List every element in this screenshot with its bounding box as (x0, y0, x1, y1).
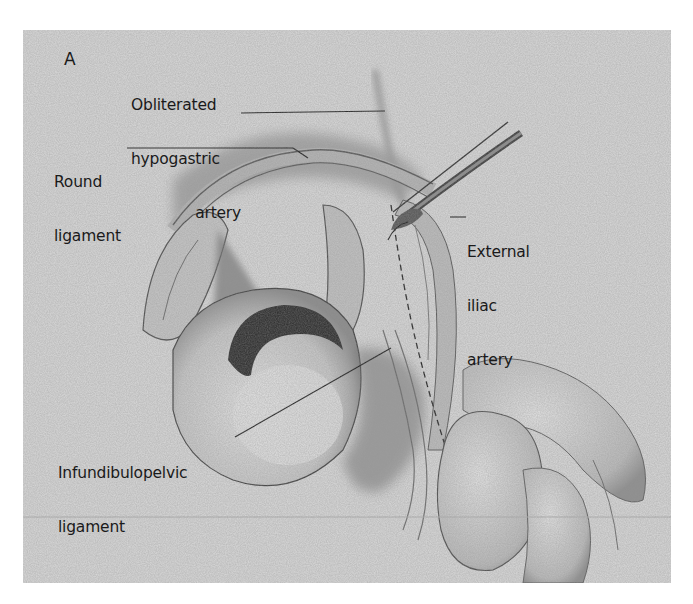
label-line: artery (131, 204, 241, 222)
panel-letter: A (64, 49, 76, 69)
label-round-ligament: Round ligament (54, 137, 121, 281)
label-line: Round (54, 173, 121, 191)
label-line: artery (467, 351, 530, 369)
label-obliterated-hypogastric-artery: Obliterated hypogastric artery (131, 60, 241, 258)
label-line: ligament (58, 518, 187, 536)
illustration-plate: A Obliterated hypogastric artery Round l… (23, 30, 671, 583)
label-line: iliac (467, 297, 530, 315)
label-external-iliac-artery: External iliac artery (467, 207, 530, 405)
label-infundibulopelvic-ligament: Infundibulopelvic ligament (58, 428, 187, 572)
label-line: hypogastric (131, 150, 241, 168)
label-line: External (467, 243, 530, 261)
label-line: Infundibulopelvic (58, 464, 187, 482)
label-line: Obliterated (131, 96, 241, 114)
label-line: ligament (54, 227, 121, 245)
